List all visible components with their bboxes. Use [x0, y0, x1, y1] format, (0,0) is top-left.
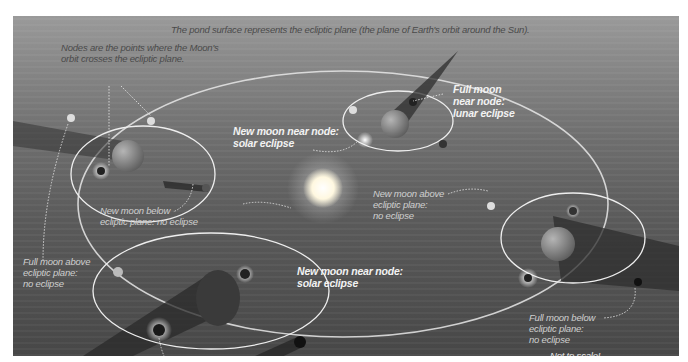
moon	[240, 269, 250, 279]
moon	[113, 267, 123, 277]
moon	[487, 202, 495, 210]
label-nodes: Nodes are the points where the Moon's or…	[61, 42, 219, 64]
sun	[303, 168, 343, 208]
diagram-canvas	[13, 16, 679, 356]
moon-glow	[357, 132, 373, 148]
label-full-moon-above: Full moon above ecliptic plane: no eclip…	[23, 256, 90, 289]
moon	[67, 114, 75, 122]
label-new-moon-solar-eclipse-bottom: New moon near node: solar eclipse	[297, 265, 403, 289]
moon	[349, 106, 357, 114]
label-new-moon-below: New moon below ecliptic plane: no eclips…	[100, 205, 198, 227]
moon	[147, 117, 155, 125]
label-full-moon-below: Full moon below ecliptic plane: no eclip…	[529, 312, 595, 345]
earth	[541, 227, 575, 261]
note-not-to-scale: Not to scale!	[550, 350, 600, 356]
earth	[381, 110, 409, 138]
moon	[153, 324, 165, 336]
earth	[196, 270, 240, 326]
moon	[97, 167, 105, 175]
moon	[294, 336, 306, 348]
label-full-moon-lunar-eclipse-top: Full moon near node: lunar eclipse	[453, 83, 515, 119]
label-new-moon-above: New moon above ecliptic plane: no eclips…	[373, 188, 444, 221]
moon	[202, 184, 210, 192]
moon	[524, 274, 532, 282]
moon	[569, 207, 577, 215]
moon	[439, 140, 447, 148]
caption-ecliptic-plane: The pond surface represents the ecliptic…	[171, 24, 530, 35]
label-new-moon-solar-eclipse-top: New moon near node: solar eclipse	[233, 125, 339, 149]
diagram-frame: The pond surface represents the ecliptic…	[13, 16, 679, 356]
moon	[634, 278, 642, 286]
moon	[409, 98, 417, 106]
earth	[112, 140, 144, 172]
